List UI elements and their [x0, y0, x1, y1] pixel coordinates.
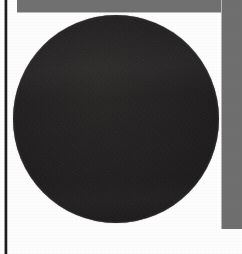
left-binding-rule	[5, 0, 7, 254]
top-gray-band	[17, 0, 242, 12]
right-gray-band	[222, 0, 242, 229]
dark-circle-figure	[13, 15, 219, 223]
scanned-page-canvas: Scanned page fragment: a large solid dar…	[0, 0, 242, 254]
